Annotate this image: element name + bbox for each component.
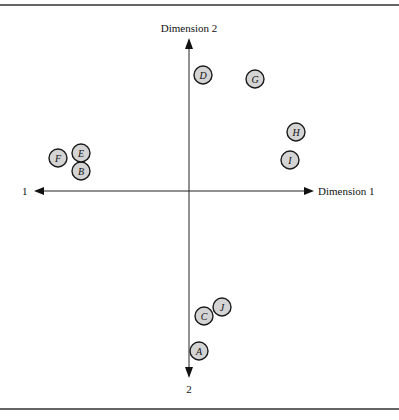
point-label: C [201,311,208,322]
point-label: E [77,148,84,159]
horizontal-axis: 1 Dimension 1 [22,185,375,197]
point-c: C [195,307,213,325]
arrow-up-icon [185,38,193,49]
point-h: H [287,123,305,141]
point-label: B [78,166,84,177]
perceptual-map: 1 Dimension 1 Dimension 2 2 ABCDEFGHIJ [0,0,399,420]
point-f: F [49,149,67,167]
axis-label-dim1-negative: 1 [22,185,28,197]
point-a: A [190,342,208,360]
point-label: H [291,127,300,138]
point-label: A [195,346,203,357]
point-d: D [194,66,212,84]
point-b: B [72,162,90,180]
point-label: F [54,153,62,164]
arrow-left-icon [34,187,44,195]
point-e: E [72,144,90,162]
axis-label-dim1: Dimension 1 [318,185,375,197]
data-points: ABCDEFGHIJ [49,66,305,360]
point-label: J [220,302,225,313]
axis-label-dim2-negative: 2 [186,383,192,395]
point-i: I [281,151,299,169]
axis-label-dim2: Dimension 2 [161,22,218,34]
point-label: G [251,74,258,85]
point-g: G [246,70,264,88]
arrow-right-icon [304,187,314,195]
point-label: D [198,70,207,81]
point-j: J [213,298,231,316]
arrow-down-icon [185,367,193,378]
point-label: I [287,155,292,166]
